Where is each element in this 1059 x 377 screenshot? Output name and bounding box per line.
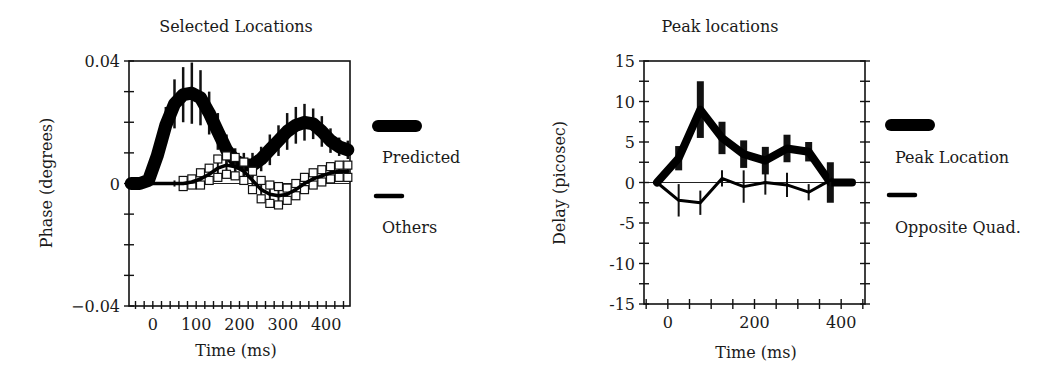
y-tick-label: 5 (625, 133, 635, 152)
data-marker-square (257, 195, 265, 203)
data-marker-square (344, 173, 352, 181)
x-axis-label: Time (ms) (715, 343, 796, 362)
legend-item-opposite-quad: Opposite Quad. (889, 195, 1021, 237)
chart-title: Peak locations (662, 17, 779, 36)
y-tick-label: 0.04 (84, 52, 120, 71)
chart-peak-locations: Peak locations -15-10-50510150200400 Tim… (550, 17, 1021, 362)
data-marker-square (266, 181, 274, 189)
data-marker-square (275, 201, 283, 209)
x-tick-label: 100 (181, 315, 212, 334)
data-marker-square (318, 166, 326, 174)
legend-item-peak-location: Peak Location (891, 125, 1009, 167)
x-tick-label: 400 (311, 315, 342, 334)
chart-title: Selected Locations (159, 17, 313, 36)
data-marker-square (231, 172, 239, 180)
series-others (131, 152, 352, 209)
legend-item-others: Others (376, 196, 437, 237)
plot-area: -15-10-50510150200400 (609, 52, 870, 332)
data-marker-square (283, 196, 291, 204)
chart-selected-locations: Selected Locations −0.0400.0401002003004… (37, 17, 460, 360)
x-tick-label: 400 (826, 313, 857, 332)
data-marker-square (309, 169, 317, 177)
x-axis-label: Time (ms) (195, 341, 276, 360)
data-marker-square (223, 152, 231, 160)
y-tick-label: -15 (609, 295, 635, 314)
legend-item-predicted: Predicted (378, 126, 460, 167)
x-tick-label: 300 (268, 315, 299, 334)
data-marker-square (266, 199, 274, 207)
data-marker-square (240, 158, 248, 166)
y-tick-label: -5 (619, 214, 635, 233)
data-marker-square (257, 176, 265, 184)
y-tick-label: 0 (625, 174, 635, 193)
y-tick-label: -10 (609, 255, 635, 274)
data-marker-square (344, 161, 352, 169)
data-marker-square (327, 163, 335, 171)
data-marker-square (335, 173, 343, 181)
data-marker-square (240, 176, 248, 184)
x-tick-label: 200 (739, 313, 770, 332)
data-marker-square (249, 167, 257, 175)
plot-area: −0.0400.040100200300400 (71, 52, 352, 334)
legend-label: Others (382, 218, 437, 237)
legend-label: Predicted (382, 148, 460, 167)
data-marker-square (231, 153, 239, 161)
y-tick-label: 10 (615, 93, 635, 112)
data-marker-square (249, 186, 257, 194)
data-marker-square (318, 178, 326, 186)
chart-canvas: Selected Locations −0.0400.0401002003004… (0, 0, 1059, 377)
data-marker-square (214, 173, 222, 181)
y-tick-label: −0.04 (71, 297, 120, 316)
data-marker-square (223, 170, 231, 178)
data-marker-square (335, 161, 343, 169)
data-marker-square (214, 155, 222, 163)
legend-label: Opposite Quad. (895, 218, 1021, 237)
x-tick-label: 0 (148, 315, 158, 334)
data-marker-square (275, 183, 283, 191)
legend: Peak Location Opposite Quad. (889, 125, 1021, 237)
series-line (657, 110, 852, 183)
legend-label: Peak Location (895, 148, 1009, 167)
data-marker-square (327, 175, 335, 183)
y-tick-label: 0 (110, 175, 120, 194)
x-tick-label: 0 (663, 313, 673, 332)
y-tick-label: 15 (615, 52, 635, 71)
x-tick-label: 200 (224, 315, 255, 334)
y-axis-label: Phase (degrees) (37, 118, 56, 249)
figure: Selected Locations −0.0400.0401002003004… (0, 0, 1059, 377)
y-axis-label: Delay (picosec) (550, 121, 569, 245)
data-marker-square (197, 181, 205, 189)
legend: Predicted Others (376, 126, 460, 237)
